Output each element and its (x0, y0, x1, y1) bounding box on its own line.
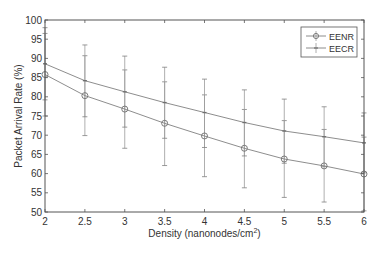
x-tick-label: 2 (42, 216, 48, 227)
x-tick-label: 4 (202, 216, 208, 227)
y-axis-label: Packet Arrival Rate (%) (13, 64, 24, 167)
y-tick-label: 95 (31, 34, 43, 45)
legend-label-eenr: EENR (329, 32, 355, 42)
legend-label-eecr: EECR (329, 44, 355, 54)
x-tick-label: 3 (122, 216, 128, 227)
y-tick-label: 85 (31, 72, 43, 83)
x-axis-label: Density (nanonodes/cm2) (148, 227, 260, 239)
y-tick-label: 90 (31, 53, 43, 64)
chart-container: 50556065707580859095100 22.533.544.555.5… (0, 0, 382, 254)
x-tick-label: 3.5 (158, 216, 172, 227)
x-tick-label: 2.5 (78, 216, 92, 227)
y-tick-label: 75 (31, 111, 43, 122)
x-tick-label: 5 (281, 216, 287, 227)
y-tick-label: 80 (31, 91, 43, 102)
y-tick-label: 50 (31, 207, 43, 218)
legend: EENR EECR (301, 27, 357, 57)
x-tick-label: 6 (361, 216, 367, 227)
y-tick-label: 60 (31, 168, 43, 179)
x-tick-label: 5.5 (317, 216, 331, 227)
y-tick-label: 70 (31, 130, 43, 141)
x-tick-label: 4.5 (237, 216, 251, 227)
y-tick-label: 100 (25, 15, 42, 26)
y-tick-label: 55 (31, 187, 43, 198)
y-tick-label: 65 (31, 149, 43, 160)
chart-svg: 50556065707580859095100 22.533.544.555.5… (0, 0, 382, 254)
